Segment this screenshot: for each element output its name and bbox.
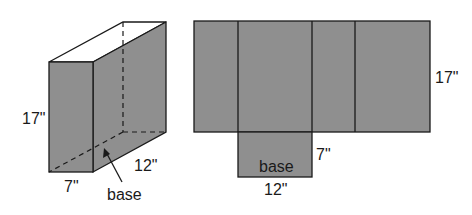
prism-depth-label: 12" — [134, 157, 157, 174]
prism-front-face — [49, 62, 93, 172]
prism-base-label: base — [107, 186, 142, 203]
diagram: 17" 7" 12" base 17" 7" base 12" — [0, 0, 472, 215]
prism-height-label: 17" — [22, 110, 45, 127]
net-base-label: base — [259, 158, 294, 175]
rectangular-prism: 17" 7" 12" base — [22, 22, 166, 203]
net-height-label: 17" — [435, 69, 458, 86]
net-base-width-label: 12" — [264, 181, 287, 198]
prism-width-label: 7" — [64, 178, 79, 195]
net-base-depth-label: 7" — [316, 146, 331, 163]
prism-net: 17" 7" base 12" — [194, 21, 458, 198]
